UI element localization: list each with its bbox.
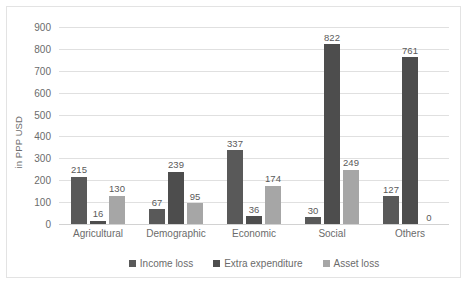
- bar-slot: 95: [187, 27, 203, 224]
- y-tick-label: 400: [34, 131, 51, 142]
- bar-value-label: 239: [168, 160, 184, 170]
- y-tick-label: 100: [34, 197, 51, 208]
- bar-value-label: 95: [190, 192, 201, 202]
- bar-value-label: 16: [93, 209, 104, 219]
- bar-slot: 67: [149, 27, 165, 224]
- bar[interactable]: [265, 186, 281, 224]
- bar-value-label: 761: [402, 46, 418, 56]
- bar-value-label: 0: [426, 213, 431, 223]
- bar-slot: 36: [246, 27, 262, 224]
- x-axis-label: Agricultural: [73, 228, 123, 239]
- y-tick-label: 600: [34, 87, 51, 98]
- legend-label: Income loss: [140, 258, 193, 269]
- legend-label: Extra expenditure: [224, 258, 302, 269]
- chart-frame: in PPP USD 0100200300400500600700800900 …: [6, 6, 461, 278]
- y-tick-label: 500: [34, 109, 51, 120]
- x-axis-label: Demographic: [146, 228, 205, 239]
- bar[interactable]: [187, 203, 203, 224]
- x-axis-label: Economic: [232, 228, 276, 239]
- bar-group: 33736174: [215, 27, 293, 224]
- bar-slot: 822: [324, 27, 340, 224]
- bar-value-label: 174: [265, 174, 281, 184]
- bar[interactable]: [227, 150, 243, 224]
- legend-label: Asset loss: [334, 258, 380, 269]
- bar[interactable]: [305, 217, 321, 224]
- bar-slot: 239: [168, 27, 184, 224]
- chart-legend: Income lossExtra expenditureAsset loss: [59, 254, 449, 272]
- bar-groups: 21516130672399533736174308222491277610: [59, 27, 449, 224]
- bar-slot: 761: [402, 27, 418, 224]
- bar-slot: 0: [421, 27, 437, 224]
- legend-item[interactable]: Asset loss: [323, 258, 380, 269]
- y-tick-label: 900: [34, 22, 51, 33]
- bar-group: 30822249: [293, 27, 371, 224]
- x-axis-label: Social: [318, 228, 345, 239]
- bar[interactable]: [383, 196, 399, 224]
- legend-swatch-icon: [213, 260, 220, 267]
- bar[interactable]: [324, 44, 340, 224]
- bar-value-label: 215: [71, 165, 87, 175]
- y-axis-tick-labels: 0100200300400500600700800900: [17, 27, 55, 224]
- bar-group: 1277610: [371, 27, 449, 224]
- bar[interactable]: [90, 221, 106, 225]
- bar-value-label: 822: [324, 33, 340, 43]
- bar-slot: 215: [71, 27, 87, 224]
- bar-slot: 174: [265, 27, 281, 224]
- bar-value-label: 337: [227, 139, 243, 149]
- bar-value-label: 67: [152, 198, 163, 208]
- bar-value-label: 36: [249, 205, 260, 215]
- bar[interactable]: [343, 170, 359, 225]
- y-tick-label: 0: [45, 219, 51, 230]
- x-axis-label: Others: [395, 228, 425, 239]
- bar-group: 21516130: [59, 27, 137, 224]
- bar[interactable]: [109, 196, 125, 224]
- bar[interactable]: [71, 177, 87, 224]
- bar-slot: 130: [109, 27, 125, 224]
- legend-item[interactable]: Extra expenditure: [213, 258, 302, 269]
- bar-slot: 337: [227, 27, 243, 224]
- legend-item[interactable]: Income loss: [129, 258, 193, 269]
- x-axis-category-labels: AgriculturalDemographicEconomicSocialOth…: [59, 228, 449, 246]
- plot-area: 21516130672399533736174308222491277610: [59, 27, 449, 224]
- bar-value-label: 30: [308, 206, 319, 216]
- y-tick-label: 300: [34, 153, 51, 164]
- bar-value-label: 130: [109, 184, 125, 194]
- bar-slot: 16: [90, 27, 106, 224]
- bar-value-label: 127: [383, 185, 399, 195]
- legend-swatch-icon: [129, 260, 136, 267]
- bar-slot: 30: [305, 27, 321, 224]
- y-tick-label: 800: [34, 43, 51, 54]
- bar[interactable]: [149, 209, 165, 224]
- bar-value-label: 249: [343, 158, 359, 168]
- bar[interactable]: [246, 216, 262, 224]
- bar-group: 6723995: [137, 27, 215, 224]
- bar-slot: 249: [343, 27, 359, 224]
- bar[interactable]: [168, 172, 184, 224]
- legend-swatch-icon: [323, 260, 330, 267]
- y-tick-label: 700: [34, 65, 51, 76]
- bar[interactable]: [402, 57, 418, 224]
- gridline: [59, 224, 449, 225]
- bar-slot: 127: [383, 27, 399, 224]
- y-tick-label: 200: [34, 175, 51, 186]
